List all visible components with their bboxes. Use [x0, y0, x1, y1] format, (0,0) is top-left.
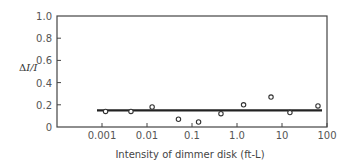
chart: 00.20.40.60.81.0 0.0010.010.11.010100 ΔI…	[0, 0, 349, 164]
data-point	[129, 109, 133, 113]
y-axis-label: ΔI/I	[19, 62, 39, 73]
data-point	[103, 109, 107, 113]
x-tick-label: 10	[276, 130, 289, 141]
x-tick-label: 1.0	[229, 130, 245, 141]
x-tick-label: 0.01	[136, 130, 158, 141]
x-tick-label: 100	[317, 130, 336, 141]
y-tick-label: 0	[46, 122, 52, 133]
data-point	[288, 110, 292, 114]
data-point	[150, 105, 154, 109]
y-tick-label: 1.0	[36, 11, 52, 22]
x-axis-ticks: 0.0010.010.11.010100	[88, 123, 337, 141]
data-point	[269, 95, 273, 99]
x-tick-label: 0.001	[88, 130, 117, 141]
data-point	[196, 120, 200, 124]
data-point	[219, 111, 223, 115]
data-point	[316, 104, 320, 108]
y-axis-label-rest: I/I	[25, 62, 38, 73]
y-tick-label: 0.6	[36, 55, 52, 66]
y-tick-label: 0.8	[36, 33, 52, 44]
y-axis-label-delta: Δ	[19, 62, 26, 73]
x-axis-label: Intensity of dimmer disk (ft-L)	[115, 149, 264, 160]
y-tick-label: 0.4	[36, 78, 52, 89]
data-point	[176, 117, 180, 121]
y-tick-label: 0.2	[36, 100, 52, 111]
x-tick-label: 0.1	[184, 130, 200, 141]
data-point	[241, 103, 245, 107]
